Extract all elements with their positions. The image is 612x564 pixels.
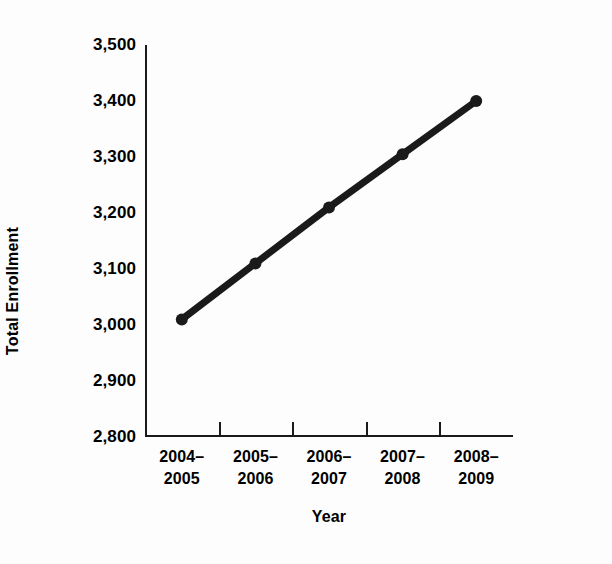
data-point-marker: 2005–2006: 3,110 xyxy=(249,257,261,269)
chart-figure: Total Enrollment 2,8002,9003,0003,1003,2… xyxy=(0,0,612,564)
x-axis-tick-mark xyxy=(439,422,441,436)
y-axis-tick-label: 3,200 xyxy=(52,204,136,221)
plot-area: 2004–2005: 3,0102005–2006: 3,1102006–200… xyxy=(145,45,513,437)
x-axis-tick-mark xyxy=(366,422,368,436)
y-axis-tick-label: 3,300 xyxy=(52,148,136,165)
data-point-marker: 2007–2008: 3,305 xyxy=(397,148,409,160)
x-axis-tick-label-line: 2009 xyxy=(433,468,519,490)
x-axis-tick-mark xyxy=(219,422,221,436)
x-axis-tick-label: 2008–2009 xyxy=(433,446,519,490)
x-axis-tick-labels: 2004–20052005–20062006–20072007–20082008… xyxy=(145,446,513,498)
y-axis-tick-labels: 2,8002,9003,0003,1003,2003,3003,4003,500 xyxy=(52,0,136,564)
data-point-marker: 2006–2007: 3,210 xyxy=(323,201,335,213)
x-axis-tick-mark xyxy=(292,422,294,436)
y-axis-tick-label: 2,800 xyxy=(52,428,136,445)
y-axis-tick-label: 2,900 xyxy=(52,372,136,389)
y-axis-tick-label: 3,000 xyxy=(52,316,136,333)
x-axis-title: Year xyxy=(145,508,513,526)
y-axis-tick-label: 3,400 xyxy=(52,92,136,109)
y-axis-tick-label: 3,500 xyxy=(52,36,136,53)
y-axis-title: Total Enrollment xyxy=(0,101,26,481)
data-series-layer: 2004–2005: 3,0102005–2006: 3,1102006–200… xyxy=(145,45,513,437)
x-axis-tick-label-line: 2008– xyxy=(433,446,519,468)
data-point-marker: 2008–2009: 3,400 xyxy=(470,95,482,107)
y-axis-tick-label: 3,100 xyxy=(52,260,136,277)
data-point-marker: 2004–2005: 3,010 xyxy=(176,313,188,325)
